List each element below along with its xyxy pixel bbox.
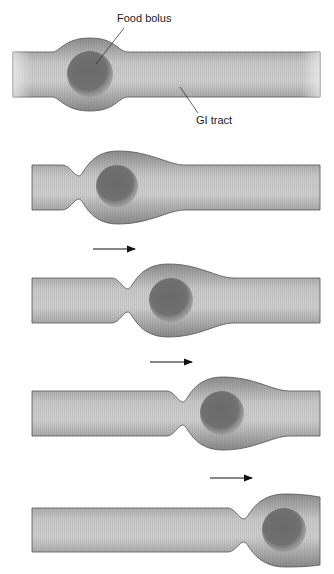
panel-3 bbox=[32, 264, 320, 337]
food-bolus bbox=[96, 165, 138, 207]
panel-4 bbox=[32, 377, 320, 450]
food-bolus bbox=[262, 508, 306, 552]
food-bolus-label: Food bolus bbox=[117, 12, 171, 24]
panel-5 bbox=[32, 494, 320, 567]
food-bolus bbox=[67, 51, 113, 97]
peristalsis-diagram bbox=[0, 0, 334, 574]
panel-1 bbox=[13, 28, 320, 113]
gi-tract-label: GI tract bbox=[196, 114, 232, 126]
food-bolus bbox=[149, 278, 193, 322]
panel-2 bbox=[32, 151, 320, 224]
food-bolus bbox=[200, 391, 244, 435]
